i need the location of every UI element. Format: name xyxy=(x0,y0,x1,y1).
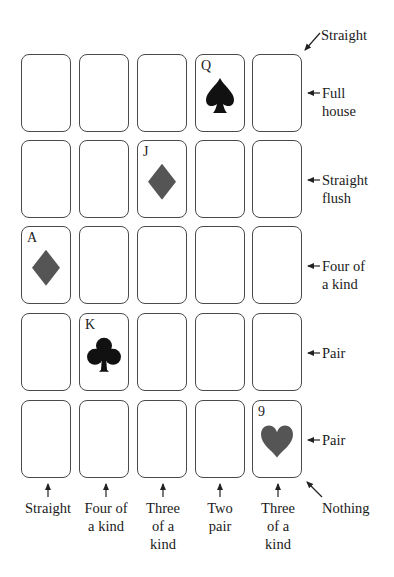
row-label-2: Four of a kind xyxy=(322,257,365,293)
card-r0-c2 xyxy=(137,54,187,132)
row-label-1: Straight flush xyxy=(322,171,368,207)
row-label-3: Pair xyxy=(322,344,345,362)
card-r4-c0 xyxy=(21,400,71,478)
diagonal-label-bottom: Nothing xyxy=(322,499,370,517)
card-r3-c2 xyxy=(137,313,187,391)
card-r2-c2 xyxy=(137,226,187,304)
club-icon xyxy=(86,337,122,377)
column-label-1: Four of a kind xyxy=(74,499,138,535)
row-label-0: Full house xyxy=(322,84,356,120)
card-king-of-clubs: K xyxy=(79,313,129,391)
card-r0-c4 xyxy=(252,54,302,132)
diamond-icon xyxy=(32,250,60,290)
card-rank: 9 xyxy=(258,404,265,420)
card-r1-c4 xyxy=(252,140,302,218)
card-jack-of-diamonds: J xyxy=(137,140,187,218)
card-rank: A xyxy=(27,230,37,246)
card-r3-c4 xyxy=(252,313,302,391)
card-ace-of-diamonds: A xyxy=(21,226,71,304)
card-r0-c1 xyxy=(79,54,129,132)
card-r2-c4 xyxy=(252,226,302,304)
arrow-diagonal-bottom xyxy=(307,482,322,497)
card-rank: K xyxy=(85,317,95,333)
card-r2-c1 xyxy=(79,226,129,304)
card-r1-c1 xyxy=(79,140,129,218)
row-label-4: Pair xyxy=(322,431,345,449)
diagonal-label-top: Straight xyxy=(321,26,367,44)
heart-icon xyxy=(260,425,294,463)
card-r1-c0 xyxy=(21,140,71,218)
card-r3-c0 xyxy=(21,313,71,391)
diamond-icon xyxy=(148,164,176,204)
card-rank: J xyxy=(143,144,148,160)
spade-icon xyxy=(204,77,236,119)
column-label-4: Three of a kind xyxy=(246,499,310,553)
column-label-3: Two pair xyxy=(188,499,252,535)
card-r4-c2 xyxy=(137,400,187,478)
card-r0-c0 xyxy=(21,54,71,132)
card-r3-c3 xyxy=(195,313,245,391)
card-r1-c3 xyxy=(195,140,245,218)
card-r4-c3 xyxy=(195,400,245,478)
card-r4-c1 xyxy=(79,400,129,478)
arrow-diagonal-top xyxy=(305,33,320,50)
card-queen-of-spades: Q xyxy=(195,54,245,132)
card-rank: Q xyxy=(201,58,211,74)
card-nine-of-hearts: 9 xyxy=(252,400,302,478)
column-label-0: Straight xyxy=(16,499,80,517)
card-r2-c3 xyxy=(195,226,245,304)
column-label-2: Three of a kind xyxy=(131,499,195,553)
